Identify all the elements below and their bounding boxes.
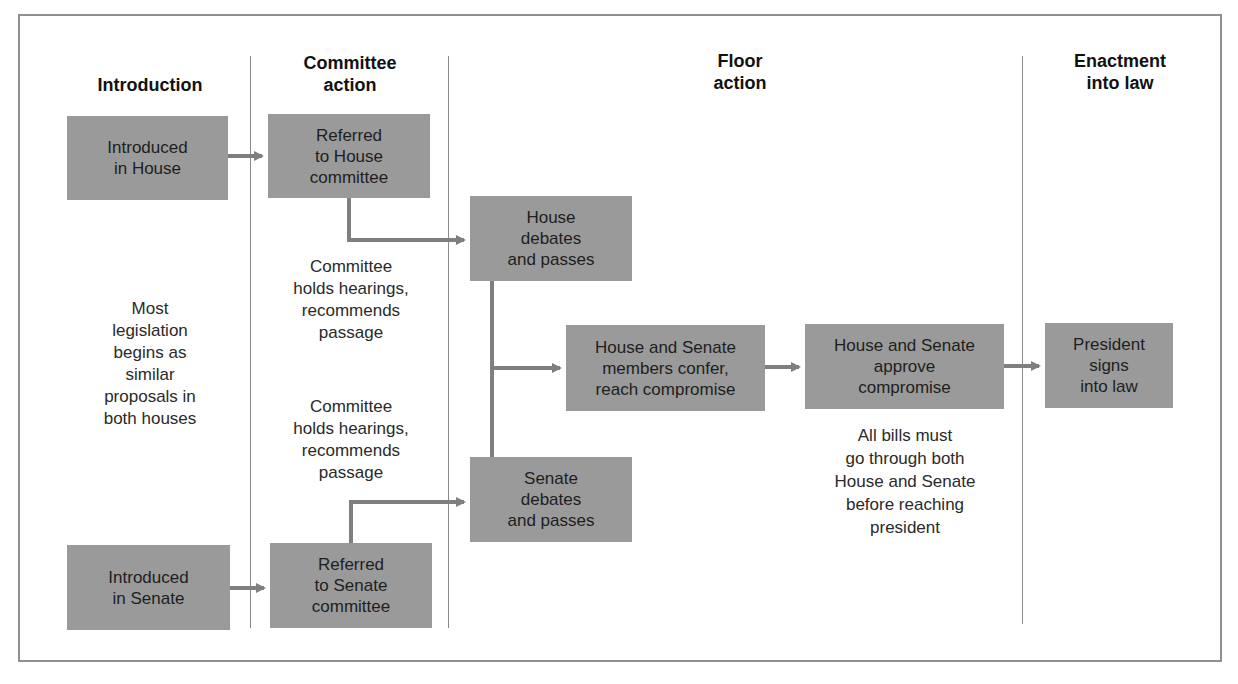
box-house-debates-and-passes: House debates and passes <box>470 196 632 281</box>
box-members-confer: House and Senate members confer, reach c… <box>566 325 765 411</box>
note-most-legislation: Most legislation begins as similar propo… <box>70 298 230 430</box>
note-all-bills: All bills must go through both House and… <box>800 424 1010 539</box>
box-approve-compromise: House and Senate approve compromise <box>805 324 1004 409</box>
box-president-signs: President signs into law <box>1045 323 1173 408</box>
note-house-committee-hearings: Committee holds hearings, recommends pas… <box>262 256 440 344</box>
box-introduced-in-senate: Introduced in Senate <box>67 545 230 630</box>
box-senate-debates-and-passes: Senate debates and passes <box>470 457 632 542</box>
box-referred-to-house-committee: Referred to House committee <box>268 114 430 198</box>
note-senate-committee-hearings: Committee holds hearings, recommends pas… <box>262 396 440 484</box>
box-introduced-in-house: Introduced in House <box>67 116 228 200</box>
box-referred-to-senate-committee: Referred to Senate committee <box>270 543 432 628</box>
